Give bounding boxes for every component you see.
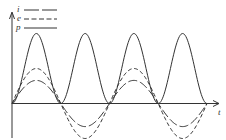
x-axis-label: t: [218, 107, 221, 117]
waveform-diagram: t i e p: [0, 0, 226, 140]
power-curve-p: [12, 34, 207, 104]
legend: i e p: [15, 4, 57, 32]
legend-label-p: p: [15, 22, 21, 32]
